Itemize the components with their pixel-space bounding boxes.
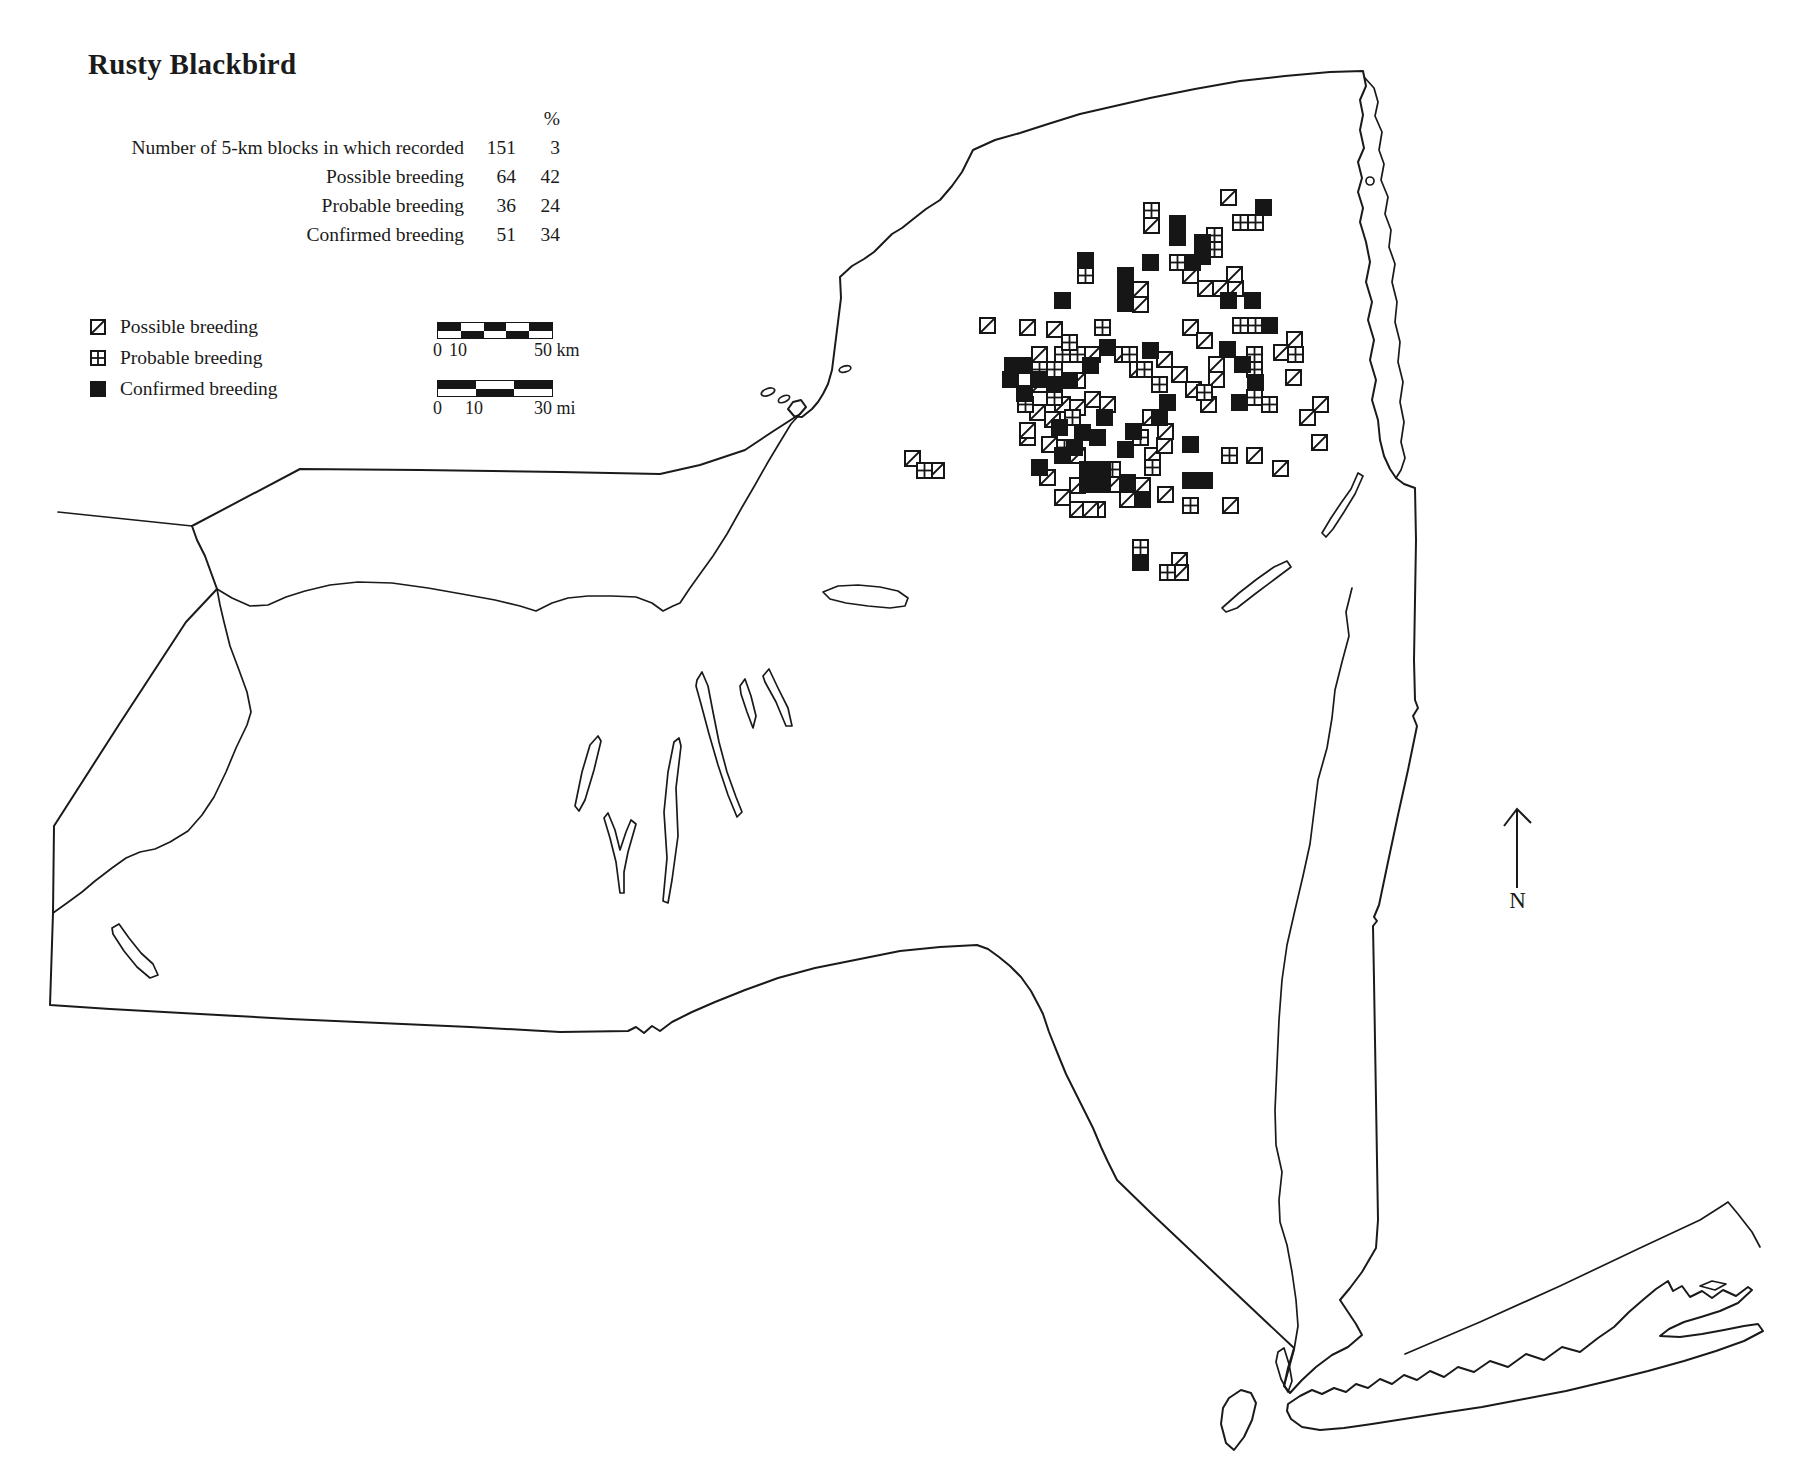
oneida-lake [823,585,908,608]
lake-ontario-shoreline [217,414,800,611]
stats-row-value: 151 [464,133,516,162]
confirmed-breeding-marker [1075,425,1090,440]
great-sacandaga-lake [1222,561,1291,612]
stats-row-label: Number of 5-km blocks in which recorded [60,133,464,162]
confirmed-breeding-marker [1032,460,1047,475]
stats-row-pct: 3 [516,133,560,162]
marker-layer [905,190,1328,580]
confirmed-breeding-marker [1003,372,1018,387]
confirmed-breeding-marker [1062,373,1077,388]
legend-label: Confirmed breeding [120,378,278,400]
confirmed-breeding-marker [1067,440,1082,455]
confirmed-breeding-marker [1143,343,1158,358]
legend: Possible breeding Probable breeding Conf… [90,316,278,409]
possible-breeding-icon [90,319,106,335]
confirmed-breeding-marker [1232,395,1247,410]
finger-lakes [575,669,792,903]
lake-george [1322,473,1363,537]
stats-row-value: 51 [464,220,516,249]
confirmed-breeding-marker [1118,442,1133,457]
mi-scale-end: 30 mi [534,398,576,419]
lake-boundary-stub [58,512,192,526]
stats-row-pct: 24 [516,191,560,220]
confirmed-breeding-marker [1047,377,1062,392]
confirmed-breeding-icon [90,381,106,397]
confirmed-breeding-marker [1017,386,1032,401]
confirmed-breeding-marker [1245,293,1260,308]
staten-island [1221,1390,1256,1450]
confirmed-breeding-marker [1135,492,1150,507]
stats-row-label: Probable breeding [60,191,464,220]
legend-item-probable: Probable breeding [90,347,278,369]
confirmed-breeding-marker [1120,475,1135,490]
confirmed-breeding-marker [1126,424,1141,439]
confirmed-breeding-marker [1262,318,1277,333]
state-outline [50,71,1418,1393]
scale-bars: 0 10 50 km 0 10 30 mi [437,322,617,421]
long-island-sound-shore [1405,1202,1760,1354]
mi-scale-ten: 10 [465,398,483,419]
lake-champlain-shoreline [1365,78,1405,478]
km-scale-ten: 10 [449,340,467,361]
stats-row-value: 36 [464,191,516,220]
hudson-river [1275,588,1352,1386]
confirmed-breeding-marker [1031,372,1046,387]
confirmed-breeding-marker [1052,420,1067,435]
stats-row-label: Possible breeding [60,162,464,191]
north-arrow-icon [1504,809,1531,888]
figure-title: Rusty Blackbird [88,48,296,81]
legend-item-possible: Possible breeding [90,316,278,338]
confirmed-breeding-marker [1118,268,1133,283]
confirmed-breeding-marker [1090,473,1105,488]
legend-label: Possible breeding [120,316,258,338]
confirmed-breeding-marker [1055,293,1070,308]
confirmed-breeding-marker [1256,200,1271,215]
stats-row-pct: 34 [516,220,560,249]
km-scale-bar: 0 10 50 km [437,322,617,363]
stats-row-value: 64 [464,162,516,191]
ontario-islands [760,365,851,405]
confirmed-breeding-marker [1221,293,1236,308]
north-arrow-label: N [1503,888,1533,914]
confirmed-breeding-marker [1195,235,1210,250]
manhattan [1276,1348,1292,1392]
confirmed-breeding-marker [1220,342,1235,357]
legend-label: Probable breeding [120,347,262,369]
mi-scale-bar: 0 10 30 mi [437,380,617,421]
legend-item-confirmed: Confirmed breeding [90,378,278,400]
km-scale-zero: 0 [433,340,442,361]
confirmed-breeding-marker [1248,375,1263,390]
confirmed-breeding-marker [1078,253,1093,268]
confirmed-breeding-marker [1133,555,1148,570]
confirmed-breeding-marker [1197,473,1212,488]
confirmed-breeding-marker [1005,358,1020,373]
confirmed-breeding-marker [1183,437,1198,452]
champlain-island [1366,177,1374,185]
stats-percent-header: % [516,104,560,133]
confirmed-breeding-marker [1143,255,1158,270]
confirmed-breeding-marker [1090,430,1105,445]
confirmed-breeding-marker [1160,395,1175,410]
atlas-figure: Rusty Blackbird % Number of 5-km blocks … [0,0,1809,1476]
mi-scale-zero: 0 [433,398,442,419]
stats-row-pct: 42 [516,162,560,191]
stats-row-label: Confirmed breeding [60,220,464,249]
confirmed-breeding-marker [1235,357,1250,372]
confirmed-breeding-marker [1118,296,1133,311]
confirmed-breeding-marker [1118,282,1133,297]
confirmed-breeding-marker [1083,358,1098,373]
confirmed-breeding-marker [1097,410,1112,425]
stats-table: % Number of 5-km blocks in which recorde… [60,104,560,249]
confirmed-breeding-marker [1185,255,1200,270]
confirmed-breeding-marker [1170,230,1185,245]
probable-breeding-icon [90,350,106,366]
chautauqua-lake [112,924,158,978]
confirmed-breeding-marker [1152,410,1167,425]
confirmed-breeding-marker [1170,216,1185,231]
confirmed-breeding-marker [1100,340,1115,355]
lake-erie-shoreline [53,589,251,913]
fishers-island [1700,1281,1726,1290]
confirmed-breeding-marker [1183,473,1198,488]
long-island [1287,1281,1763,1430]
km-scale-end: 50 km [534,340,580,361]
